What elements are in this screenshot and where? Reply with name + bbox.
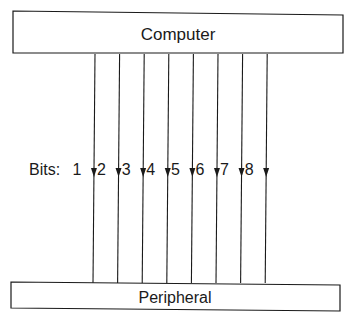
arrow-down-icon: [116, 168, 122, 177]
computer-label: Computer: [141, 25, 216, 44]
bit-number-6: 6: [195, 161, 204, 178]
data-lines: [91, 54, 269, 283]
arrow-down-icon: [140, 168, 146, 177]
arrow-down-icon: [239, 168, 245, 177]
bit-numbers: 12345678: [72, 161, 253, 178]
peripheral-label: Peripheral: [139, 289, 212, 306]
bit-number-1: 1: [72, 161, 81, 178]
bit-number-8: 8: [245, 161, 254, 178]
bits-label: Bits:: [29, 161, 60, 178]
arrow-down-icon: [214, 168, 220, 177]
bit-number-7: 7: [220, 161, 229, 178]
bit-number-3: 3: [122, 161, 131, 178]
arrow-down-icon: [189, 168, 195, 177]
bit-number-2: 2: [97, 161, 106, 178]
bit-number-4: 4: [146, 161, 155, 178]
arrow-down-icon: [91, 168, 97, 177]
arrow-down-icon: [165, 168, 171, 177]
bit-number-5: 5: [171, 161, 180, 178]
parallel-transmission-diagram: Computer Bits: 12345678 Peripheral: [0, 0, 355, 323]
arrow-down-icon: [263, 168, 269, 177]
peripheral-box: Peripheral: [11, 282, 340, 311]
computer-box: Computer: [13, 11, 343, 53]
